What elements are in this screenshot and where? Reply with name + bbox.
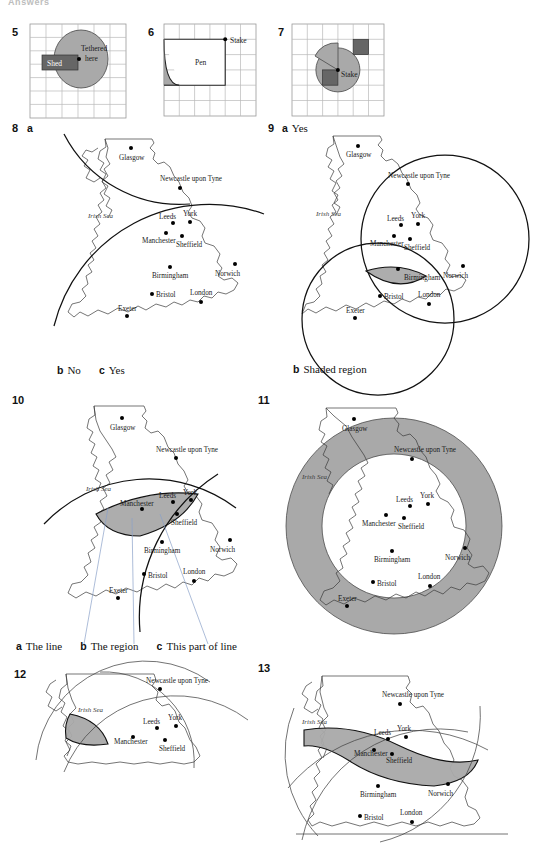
figure-number-9: 9 (268, 122, 274, 134)
city-label-sheffield-12: Sheffield (159, 745, 186, 753)
caption-letter-b-10: b (80, 640, 86, 652)
sea-label-8: Irish Sea (87, 212, 114, 220)
city-label-newcastle-13: Newcastle upon Tyne (382, 691, 444, 699)
city-label-manchester-10: Manchester (120, 500, 154, 508)
figure-11: Glasgow Newcastle upon Tyne Irish Sea Le… (282, 396, 522, 646)
page-header: Answers (8, 0, 50, 7)
city-label-york-11: York (420, 492, 434, 500)
city-label-bristol-10: Bristol (148, 572, 168, 580)
city-label-sheffield-13: Sheffield (386, 757, 413, 765)
city-label-london-13: London (400, 809, 423, 817)
city-label-norwich-13: Norwich (428, 790, 454, 798)
city-label-london-10: London (183, 568, 206, 576)
stake-point-6 (223, 37, 227, 41)
city-label-norwich-11: Norwich (445, 554, 471, 562)
city-label-bristol-8: Bristol (156, 291, 176, 299)
sea-label-10: Irish Sea (85, 485, 112, 493)
city-label-leeds-11: Leeds (396, 496, 413, 504)
caption-letter-c-8: c (99, 364, 105, 376)
answers-page: Answers 5 (0, 0, 533, 853)
figure-8-part-a: a (27, 122, 33, 134)
city-label-birmingham-8: Birmingham (152, 272, 189, 280)
city-label-birmingham-13: Birmingham (360, 791, 397, 799)
city-label-birmingham-9: Birmingham (404, 274, 441, 282)
city-label-london-8: London (190, 289, 213, 297)
city-label-norwich-10: Norwich (210, 546, 236, 554)
tether-point-5 (77, 57, 81, 61)
city-label-manchester-13: Manchester (354, 750, 388, 758)
here-label-5: here (85, 54, 99, 63)
figure-6: Pen Stake (162, 22, 272, 122)
shed-label-5: Shed (47, 59, 62, 68)
city-label-manchester-11: Manchester (362, 520, 396, 528)
figure-9: Glasgow Newcastle upon Tyne Irish Sea Le… (300, 126, 530, 366)
city-label-york-12: York (168, 714, 182, 722)
city-label-manchester-12: Manchester (114, 738, 148, 746)
city-label-leeds-8: Leeds (159, 213, 176, 221)
city-label-york-8: York (183, 210, 197, 218)
city-label-glasgow-8: Glasgow (119, 154, 145, 162)
figure-number-12: 12 (14, 668, 26, 680)
figure-8: Glasgow Newcastle upon Tyne Irish Sea Le… (42, 126, 272, 366)
tethered-label-5: Tethered (81, 44, 107, 53)
city-label-newcastle-12: Newcastle upon Tyne (146, 677, 208, 685)
city-label-bristol-9: Bristol (384, 293, 404, 301)
figure-number-5: 5 (12, 26, 18, 38)
city-label-exeter-9: Exeter (346, 307, 365, 315)
figure-8-caption: bNocYes (57, 364, 125, 376)
city-label-manchester-8: Manchester (142, 237, 176, 245)
shaded-wedge-12 (66, 714, 109, 745)
figure-7: Stake (290, 22, 400, 122)
figure-number-11: 11 (258, 394, 270, 406)
caption-text-c-8: Yes (105, 364, 125, 376)
figure-number-10: 10 (12, 394, 24, 406)
figure-number-13: 13 (258, 662, 270, 674)
city-label-exeter-10: Exeter (109, 587, 128, 595)
uk-coastline-8 (68, 139, 238, 317)
stake-label-7: Stake (341, 70, 358, 79)
city-label-york-10: York (183, 489, 197, 497)
dark-square-lower-7 (323, 70, 338, 85)
city-label-leeds-13: Leeds (374, 729, 391, 737)
city-label-norwich-8: Norwich (215, 270, 241, 278)
uk-coastline-9 (302, 136, 466, 314)
city-label-london-11: London (418, 573, 441, 581)
city-label-bristol-13: Bristol (364, 814, 384, 822)
city-label-leeds-9: Leeds (387, 215, 404, 223)
city-label-birmingham-11: Birmingham (374, 556, 411, 564)
figure-number-6: 6 (148, 26, 154, 38)
figure-12: Newcastle upon Tyne Irish Sea Leeds York… (34, 664, 274, 774)
city-label-exeter-8: Exeter (118, 305, 137, 313)
figure-number-8: 8 (12, 122, 18, 134)
caption-letter-a-10: a (16, 640, 22, 652)
city-label-york-13: York (397, 725, 411, 733)
city-label-glasgow-11: Glasgow (342, 425, 368, 433)
figure-5: Shed Tethered here (28, 22, 140, 122)
part-letter-a-8: a (27, 122, 33, 134)
city-label-sheffield-8: Sheffield (176, 241, 203, 249)
city-label-sheffield-11: Sheffield (398, 523, 425, 531)
sea-label-11: Irish Sea (301, 473, 328, 481)
city-label-bristol-11: Bristol (377, 580, 397, 588)
city-label-manchester-9: Manchester (370, 240, 404, 248)
sea-label-13: Irish Sea (301, 718, 328, 726)
dark-square-upper-7 (353, 39, 368, 54)
figure-10: Glasgow Newcastle upon Tyne Irish Sea Le… (36, 396, 271, 646)
caption-text-b-10: The region (87, 640, 139, 652)
city-markers-9: Glasgow Newcastle upon Tyne Irish Sea Le… (315, 144, 469, 320)
city-label-sheffield-10: Sheffield (171, 519, 198, 527)
stake-label-6: Stake (230, 36, 247, 45)
city-label-newcastle-11: Newcastle upon Tyne (394, 446, 456, 454)
pen-label-6: Pen (195, 58, 207, 67)
caption-text-b-8: No (63, 364, 80, 376)
part-letter-a-9: a (282, 122, 288, 134)
figure-number-7: 7 (278, 26, 284, 38)
city-label-sheffield-9: Sheffield (404, 244, 431, 252)
city-label-glasgow-10: Glasgow (110, 424, 136, 432)
caption-text-c-10: This part of line (162, 640, 237, 652)
city-label-newcastle-10: Newcastle upon Tyne (156, 446, 218, 454)
city-label-norwich-9: Norwich (443, 272, 469, 280)
city-label-birmingham-10: Birmingham (144, 547, 181, 555)
stake-point-7 (336, 68, 340, 72)
figure-9-caption: bShaded region (293, 363, 367, 375)
